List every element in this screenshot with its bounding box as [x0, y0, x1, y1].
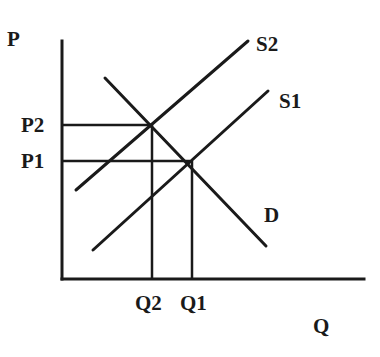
curve-label-s1: S1: [279, 89, 301, 113]
curve-label-d: D: [264, 203, 279, 227]
y-axis-label: P: [7, 27, 20, 51]
supply-demand-diagram: P Q P2 P1 Q2 Q1 S2 S1 D: [0, 0, 380, 357]
quantity-label-q2: Q2: [135, 291, 162, 315]
quantity-label-q1: Q1: [180, 291, 207, 315]
x-axis-label: Q: [313, 314, 329, 338]
supply-curve-s1: [93, 91, 268, 250]
price-label-p2: P2: [21, 113, 44, 137]
curve-label-s2: S2: [256, 32, 278, 56]
supply-curve-s2: [76, 41, 248, 190]
price-label-p1: P1: [21, 149, 44, 173]
